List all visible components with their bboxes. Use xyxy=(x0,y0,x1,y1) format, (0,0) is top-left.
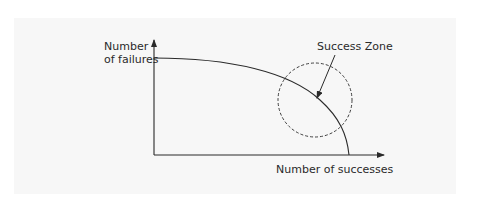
x-axis-label: Number of successes xyxy=(276,163,393,176)
y-axis-label: Number of failures xyxy=(104,40,159,66)
diagram-canvas xyxy=(0,0,493,217)
success-zone-label: Success Zone xyxy=(317,40,393,53)
tradeoff-curve xyxy=(154,58,349,155)
y-axis-label-line2: of failures xyxy=(104,53,159,66)
zone-pointer-arrow xyxy=(317,55,335,98)
y-axis-label-line1: Number xyxy=(104,40,159,53)
